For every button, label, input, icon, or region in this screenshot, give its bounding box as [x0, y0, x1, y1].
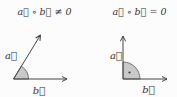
dot-product-figure: a⃗ ∘ b⃗ ≠ 0 a⃗ b⃗ a⃗ ∘ b⃗ = 0 a⃗ b⃗ [0, 0, 177, 97]
vector-diagrams-svg: a⃗ ∘ b⃗ ≠ 0 a⃗ b⃗ a⃗ ∘ b⃗ = 0 a⃗ b⃗ [0, 0, 177, 97]
vector-b-label: b⃗ [142, 84, 154, 95]
acute-angle-sector [14, 66, 29, 79]
vector-a-label: a⃗ [5, 50, 17, 61]
panel-dot-product-nonzero: a⃗ ∘ b⃗ ≠ 0 a⃗ b⃗ [5, 6, 71, 97]
vector-b-label: b⃗ [33, 85, 45, 96]
equation-nonzero: a⃗ ∘ b⃗ ≠ 0 [18, 6, 72, 17]
right-angle-dot [128, 71, 130, 73]
equation-zero: a⃗ ∘ b⃗ = 0 [113, 6, 167, 17]
vector-a-label: a⃗ [110, 50, 122, 61]
panel-dot-product-zero: a⃗ ∘ b⃗ = 0 a⃗ b⃗ [110, 6, 167, 96]
right-angle-sector [123, 62, 140, 79]
